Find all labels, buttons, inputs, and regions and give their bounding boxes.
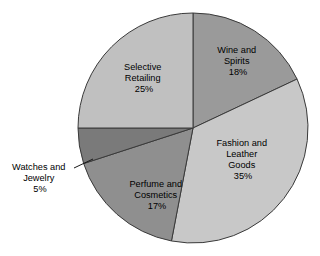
watches-label-percent: 5% bbox=[33, 184, 46, 194]
perfume-label-percent: 17% bbox=[148, 201, 166, 211]
fashion-label-line-1: Fashion and bbox=[216, 138, 267, 148]
watches-label-line-1: Watches and bbox=[12, 162, 65, 172]
selective-label-line-2: Retailing bbox=[125, 73, 161, 83]
fashion-label-line-3: Goods bbox=[228, 160, 255, 170]
wine-label-line-1: Wine and bbox=[217, 45, 256, 55]
fashion-label-percent: 35% bbox=[234, 171, 252, 181]
pie-chart-figure: Wine and Spirits 18% Fashion and Leather… bbox=[0, 0, 320, 256]
perfume-label-line-1: Perfume and bbox=[129, 179, 182, 189]
selective-label-percent: 25% bbox=[135, 84, 153, 94]
pie-slices-group bbox=[78, 13, 308, 243]
fashion-label-line-2: Leather bbox=[226, 149, 257, 159]
selective-label-line-1: Selective bbox=[124, 62, 161, 72]
wine-label-percent: 18% bbox=[229, 67, 247, 77]
pie-chart-svg: Wine and Spirits 18% Fashion and Leather… bbox=[0, 0, 320, 256]
slice-label-watches-and-jewelry: Watches and Jewelry 5% bbox=[12, 162, 68, 194]
wine-label-line-2: Spirits bbox=[224, 56, 250, 66]
perfume-label-line-2: Cosmetics bbox=[134, 190, 177, 200]
watches-label-line-2: Jewelry bbox=[23, 173, 55, 183]
